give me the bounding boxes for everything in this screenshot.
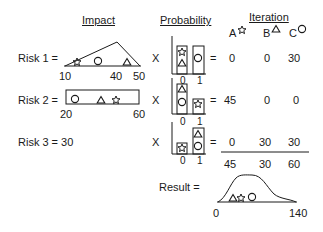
circle-icon [298, 25, 305, 32]
risk-3-probability-chart [172, 122, 206, 154]
risk-1-impact-triangle [64, 42, 141, 66]
star-icon [238, 26, 246, 34]
risk-2-impact-rectangle [66, 90, 139, 104]
risk-1-probability-chart [172, 36, 206, 74]
result-distribution [217, 175, 297, 202]
risk-2-probability-chart [172, 78, 206, 114]
triangle-icon [272, 26, 280, 33]
diagram-graphics [0, 0, 323, 232]
